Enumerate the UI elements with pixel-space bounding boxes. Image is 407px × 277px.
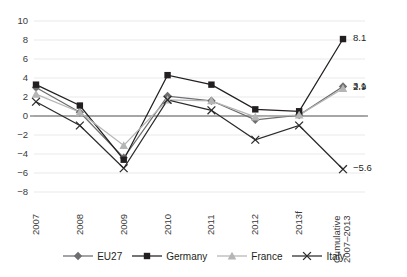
- gridlines: [34, 21, 365, 192]
- chart-legend: EU27GermanyFranceItaly: [0, 244, 407, 268]
- square-marker: [164, 72, 170, 78]
- y-tick-label: 6: [2, 53, 28, 64]
- legend-label: Germany: [166, 251, 207, 262]
- cross-marker: [295, 122, 303, 130]
- cross-marker: [339, 165, 347, 173]
- cross-marker: [76, 122, 84, 130]
- square-marker: [208, 81, 214, 87]
- y-tick-label: 4: [2, 72, 28, 83]
- value-label-france: 2.9: [353, 81, 366, 92]
- diamond-marker: [74, 252, 82, 260]
- legend-item-eu27[interactable]: EU27: [62, 250, 122, 262]
- y-tick-label: −6: [2, 167, 28, 178]
- x-tick-label: 2011: [206, 197, 216, 235]
- series-line-germany: [36, 39, 343, 160]
- square-marker: [33, 81, 39, 87]
- cross-marker: [120, 164, 128, 172]
- y-tick-label: −4: [2, 148, 28, 159]
- y-tick-label: 8: [2, 34, 28, 45]
- legend-swatch-triangle-icon: [216, 250, 248, 262]
- cross-marker: [32, 98, 40, 106]
- legend-label: France: [251, 251, 282, 262]
- cross-marker: [208, 106, 216, 114]
- legend-label: Italy: [326, 251, 344, 262]
- legend-item-germany[interactable]: Germany: [131, 250, 207, 262]
- chart-container: 1086420−2−4−6−8 200720082009201020112012…: [0, 0, 407, 277]
- legend-item-italy[interactable]: Italy: [291, 250, 344, 262]
- legend-swatch-diamond-icon: [62, 250, 94, 262]
- cross-marker: [251, 136, 259, 144]
- x-tick-label: 2007: [31, 197, 41, 235]
- square-marker: [252, 106, 258, 112]
- y-tick-label: −8: [2, 186, 28, 197]
- legend-item-france[interactable]: France: [216, 250, 282, 262]
- y-tick-label: 10: [2, 15, 28, 26]
- square-marker: [340, 36, 346, 42]
- x-tick-label: 2010: [163, 197, 173, 235]
- x-tick-label: 2008: [75, 197, 85, 235]
- y-tick-label: 2: [2, 91, 28, 102]
- square-marker: [121, 157, 127, 163]
- value-label-germany: 8.1: [353, 32, 366, 43]
- square-marker: [144, 253, 150, 259]
- legend-label: EU27: [97, 251, 122, 262]
- x-tick-label: 2013f: [294, 197, 304, 235]
- legend-swatch-square-icon: [131, 250, 163, 262]
- x-tick-label: 2012: [250, 197, 260, 235]
- legend-swatch-cross-icon: [291, 250, 323, 262]
- square-marker: [77, 102, 83, 108]
- value-label-italy: −5.6: [353, 162, 372, 173]
- y-tick-label: 0: [2, 110, 28, 121]
- x-tick-label: 2009: [119, 197, 129, 235]
- y-tick-label: −2: [2, 129, 28, 140]
- triangle-marker: [32, 90, 41, 98]
